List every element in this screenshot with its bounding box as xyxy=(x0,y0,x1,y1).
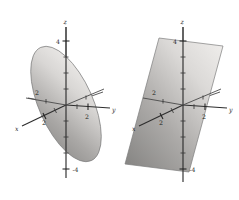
left-panel-plot: z y x 4 -4 2 2 2 xyxy=(0,0,119,200)
x-tick-label-2: 2 xyxy=(42,119,46,126)
figure-root: z y x 4 -4 2 2 2 xyxy=(0,0,239,200)
y-axis-label: y xyxy=(111,106,116,114)
z-axis-label: z xyxy=(63,18,68,25)
x-back-tick-label-2: 2 xyxy=(152,89,156,96)
left-panel: z y x 4 -4 2 2 2 xyxy=(0,0,119,200)
z-tick-label-neg4: -4 xyxy=(190,166,196,173)
y-tick-label-2: 2 xyxy=(202,113,206,120)
z-axis-label: z xyxy=(180,18,185,25)
x-axis-label: x xyxy=(132,125,136,132)
y-axis-label: y xyxy=(228,106,233,114)
right-panel-plot: z y x 4 -4 2 2 2 xyxy=(119,0,238,200)
z-tick-label-4: 4 xyxy=(56,38,60,45)
rectangle-shape xyxy=(125,38,223,172)
rectangular-plane-surface xyxy=(125,38,223,172)
right-panel: z y x 4 -4 2 2 2 xyxy=(119,0,238,200)
z-tick-label-neg4: -4 xyxy=(73,166,79,173)
x-axis-label: x xyxy=(15,125,19,132)
x-back-tick-label-2: 2 xyxy=(35,89,39,96)
x-tick-label-2: 2 xyxy=(159,119,163,126)
z-tick-label-4: 4 xyxy=(173,38,177,45)
y-tick-label-2: 2 xyxy=(85,113,89,120)
